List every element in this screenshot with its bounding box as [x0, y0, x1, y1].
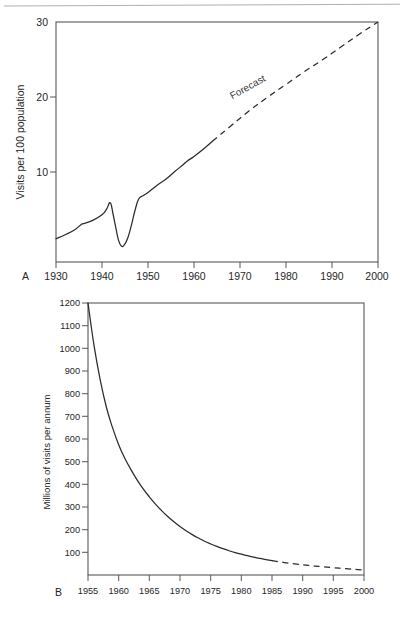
panel-b-ytick-label-800: 800 — [65, 389, 80, 399]
panel-b-ytick-labels: 100200300400500600700800900100011001200 — [60, 298, 80, 557]
panel-b-xtick-labels: 1955196019651970197519801985199019952000 — [78, 586, 374, 596]
panel-a: 30 20 10 1930 1940 1950 1960 1970 1980 1… — [14, 16, 389, 282]
panel-a-xtick-1930: 1930 — [44, 270, 68, 282]
panel-a-xtick-1980: 1980 — [274, 270, 298, 282]
panel-a-xtick-2000: 2000 — [365, 270, 389, 282]
panel-a-xtick-1970: 1970 — [228, 270, 252, 282]
panel-b-ytick-label-700: 700 — [65, 412, 80, 422]
panel-a-ytick-30: 30 — [36, 16, 48, 28]
panel-b-xtick-label-1960: 1960 — [108, 586, 128, 596]
panel-a-observed-line — [56, 141, 212, 246]
panel-b-xtick-label-1980: 1980 — [231, 586, 251, 596]
panel-b-xtick-label-1990: 1990 — [292, 586, 312, 596]
panel-a-forecast-line — [212, 22, 378, 141]
panel-a-ytick-10: 10 — [36, 166, 48, 178]
panel-b-plot-frame — [88, 303, 364, 575]
panel-a-label: A — [22, 270, 29, 282]
forecast-annotation: Forecast — [228, 73, 268, 102]
two-panel-line-chart: 30 20 10 1930 1940 1950 1960 1970 1980 1… — [0, 0, 404, 617]
panel-b-observed-line — [88, 303, 272, 561]
panel-b-ytick-label-1100: 1100 — [60, 321, 80, 331]
panel-b-ytick-label-900: 900 — [65, 366, 80, 376]
panel-b-ytick-label-400: 400 — [65, 480, 80, 490]
panel-b-label: B — [55, 586, 62, 598]
panel-b-ytick-label-1000: 1000 — [60, 344, 80, 354]
panel-a-xtick-1990: 1990 — [320, 270, 344, 282]
panel-b-xtick-label-1995: 1995 — [323, 586, 343, 596]
page-scan-artifact — [4, 4, 400, 6]
panel-a-xtick-1960: 1960 — [182, 270, 206, 282]
panel-b-forecast-line — [272, 561, 364, 570]
figure-root: 30 20 10 1930 1940 1950 1960 1970 1980 1… — [0, 0, 404, 617]
panel-b-xtick-label-1955: 1955 — [78, 586, 98, 596]
panel-a-y-axis-title: Visits per 100 population — [14, 84, 26, 199]
panel-b-ytick-label-1200: 1200 — [60, 298, 80, 308]
panel-b-y-axis-title: Millions of visits per annum — [41, 394, 52, 509]
panel-b-ytick-label-600: 600 — [65, 434, 80, 444]
panel-a-x-ticks — [56, 262, 378, 268]
panel-a-plot-frame — [56, 22, 378, 262]
panel-b-xtick-label-1965: 1965 — [139, 586, 159, 596]
panel-b-y-ticks — [82, 303, 88, 552]
panel-b-ytick-label-500: 500 — [65, 457, 80, 467]
panel-a-xtick-1950: 1950 — [136, 270, 160, 282]
panel-b-xtick-label-1970: 1970 — [170, 586, 190, 596]
panel-b-x-ticks — [88, 575, 364, 581]
panel-b-xtick-label-1985: 1985 — [262, 586, 282, 596]
panel-a-y-ticks — [50, 97, 56, 172]
panel-b-ytick-label-100: 100 — [65, 548, 80, 558]
panel-b-xtick-label-2000: 2000 — [354, 586, 374, 596]
panel-b: 100200300400500600700800900100011001200 … — [41, 298, 374, 598]
panel-a-ytick-20: 20 — [36, 91, 48, 103]
panel-b-ytick-label-300: 300 — [65, 502, 80, 512]
panel-b-xtick-label-1975: 1975 — [200, 586, 220, 596]
panel-b-ytick-label-200: 200 — [65, 525, 80, 535]
panel-a-xtick-1940: 1940 — [90, 270, 114, 282]
